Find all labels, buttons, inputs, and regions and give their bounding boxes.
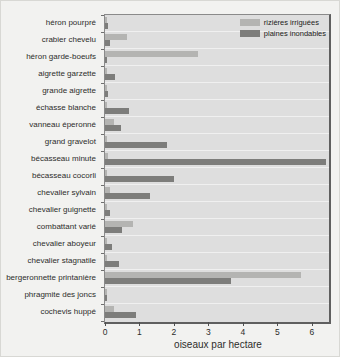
category-label: aigrette garzette — [1, 65, 99, 82]
category-label: vanneau éperonné — [1, 116, 99, 133]
x-tick-label: 3 — [198, 327, 218, 337]
category-label: héron pourpré — [1, 14, 99, 31]
bar-plaines — [105, 74, 115, 80]
y-axis-tick — [101, 100, 104, 101]
y-axis-tick — [101, 185, 104, 186]
y-axis-tick — [101, 32, 104, 33]
category-label: chevalier sylvain — [1, 184, 99, 201]
y-axis-tick — [101, 253, 104, 254]
bar-plaines — [105, 261, 119, 267]
category-row — [105, 304, 329, 321]
bar-plaines — [105, 210, 110, 216]
legend-swatch-rizieres — [240, 19, 260, 26]
legend-swatch-plaines — [240, 30, 260, 37]
category-row — [105, 66, 329, 83]
bar-plaines — [105, 176, 174, 182]
x-axis-tick — [312, 322, 313, 326]
x-axis-tick — [139, 322, 140, 326]
y-axis-tick — [101, 236, 104, 237]
x-axis-tick — [105, 322, 106, 326]
category-label: chevalier stagnatile — [1, 252, 99, 269]
category-row — [105, 100, 329, 117]
category-label: bécasseau minute — [1, 150, 99, 167]
bar-plaines — [105, 159, 326, 165]
bar-plaines — [105, 108, 129, 114]
bird-density-bar-chart: rizières irriguées plaines inondables hé… — [0, 0, 340, 357]
y-axis-tick — [101, 151, 104, 152]
category-label: bergeronnette printanière — [1, 269, 99, 286]
bar-plaines — [105, 295, 107, 301]
y-axis-tick — [101, 304, 104, 305]
category-label: phragmite des joncs — [1, 286, 99, 303]
category-row — [105, 236, 329, 253]
category-row — [105, 202, 329, 219]
legend-entry-plaines: plaines inondables — [240, 29, 326, 38]
category-label: cochevis huppé — [1, 303, 99, 320]
y-axis-tick — [101, 270, 104, 271]
category-row — [105, 83, 329, 100]
category-label: crabier chevelu — [1, 31, 99, 48]
bar-plaines — [105, 227, 122, 233]
y-axis-tick — [101, 321, 104, 322]
legend: rizières irriguées plaines inondables — [238, 17, 328, 39]
x-tick-label: 4 — [233, 327, 253, 337]
bar-plaines — [105, 23, 108, 29]
bar-plaines — [105, 244, 112, 250]
y-axis-tick — [101, 134, 104, 135]
y-axis-tick — [101, 117, 104, 118]
x-tick-label: 5 — [267, 327, 287, 337]
category-label: bécasseau cocorli — [1, 167, 99, 184]
x-axis-title: oiseaux par hectare — [105, 339, 331, 350]
y-axis-tick — [101, 83, 104, 84]
category-row — [105, 253, 329, 270]
bar-plaines — [105, 125, 121, 131]
y-axis-tick — [101, 168, 104, 169]
category-row — [105, 219, 329, 236]
bar-plaines — [105, 57, 107, 63]
category-row — [105, 117, 329, 134]
legend-entry-rizieres: rizières irriguées — [240, 18, 326, 27]
y-axis-tick — [101, 49, 104, 50]
y-axis-tick — [101, 202, 104, 203]
bar-plaines — [105, 142, 167, 148]
category-label: grand gravelot — [1, 133, 99, 150]
x-axis-tick — [243, 322, 244, 326]
x-axis-tick — [277, 322, 278, 326]
category-label: chevalier guignette — [1, 201, 99, 218]
category-label: combattant varié — [1, 218, 99, 235]
bar-plaines — [105, 312, 136, 318]
category-label: héron garde-boeufs — [1, 48, 99, 65]
y-axis-tick — [101, 287, 104, 288]
x-tick-label: 1 — [129, 327, 149, 337]
plot-area: rizières irriguées plaines inondables — [104, 14, 331, 324]
x-tick-label: 2 — [164, 327, 184, 337]
bar-rizieres — [105, 51, 198, 57]
category-label: échasse blanche — [1, 99, 99, 116]
x-tick-label: 6 — [302, 327, 322, 337]
bar-plaines — [105, 193, 150, 199]
y-axis-tick — [101, 15, 104, 16]
y-axis-tick — [101, 66, 104, 67]
y-axis-tick — [101, 219, 104, 220]
bar-plaines — [105, 278, 231, 284]
bar-plaines — [105, 91, 108, 97]
legend-label-rizieres: rizières irriguées — [264, 18, 319, 27]
bar-plaines — [105, 40, 110, 46]
category-label: chevalier aboyeur — [1, 235, 99, 252]
x-axis-tick — [174, 322, 175, 326]
category-label: grande aigrette — [1, 82, 99, 99]
category-row — [105, 287, 329, 304]
legend-label-plaines: plaines inondables — [264, 29, 326, 38]
x-axis-tick — [208, 322, 209, 326]
x-tick-label: 0 — [95, 327, 115, 337]
